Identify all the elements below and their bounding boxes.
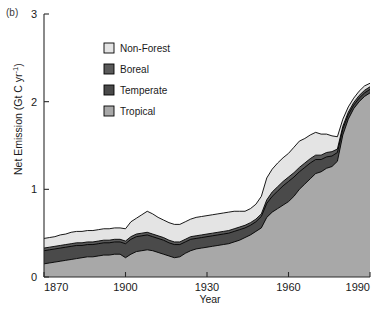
legend-label-boreal: Boreal (120, 64, 149, 75)
figure-panel-b: (b) 0123 18701900193019601990 Net Emissi… (0, 0, 389, 311)
legend-swatch-non-forest (104, 43, 114, 53)
legend-swatch-boreal (104, 64, 114, 74)
legend-label-non-forest: Non-Forest (120, 43, 170, 54)
y-axis-title: Net Emission (Gt C yr-1) (11, 63, 24, 175)
x-tick-label: 1900 (113, 281, 137, 293)
x-tick-label: 1960 (276, 281, 300, 293)
y-tick-label: 1 (31, 183, 37, 195)
y-tick-label: 3 (31, 8, 37, 20)
x-axis-title: Year (199, 293, 221, 305)
legend-label-tropical: Tropical (120, 106, 155, 117)
panel-label: (b) (6, 7, 18, 18)
y-axis-title-text: Net Emission (Gt C yr-1) (11, 63, 24, 175)
y-axis-title-close: ) (12, 63, 24, 67)
x-tick-label: 1930 (195, 281, 219, 293)
legend-swatch-temperate (104, 85, 114, 95)
y-tick-label: 0 (31, 271, 37, 283)
legend-swatch-tropical (104, 106, 114, 116)
x-tick-label: 1870 (44, 281, 68, 293)
y-tick-label: 2 (31, 96, 37, 108)
y-axis-title-main: Net Emission (Gt C yr (12, 73, 24, 175)
y-axis-title-superscript: -1 (11, 67, 20, 74)
x-tick-label: 1990 (346, 281, 370, 293)
legend-label-temperate: Temperate (120, 85, 168, 96)
